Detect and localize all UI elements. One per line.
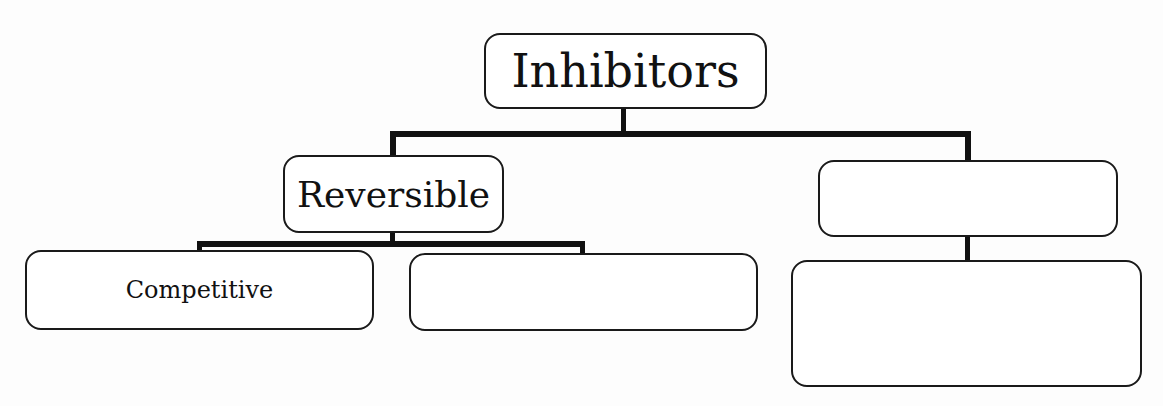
connector-level2-horizontal [390,131,971,137]
node-competitive: Competitive [25,250,374,330]
root-node-inhibitors: Inhibitors [484,33,767,109]
connector-to-right-branch [965,131,971,162]
node-reversible: Reversible [283,155,504,233]
node-right-branch-blank [818,160,1118,237]
node-reversible-label: Reversible [297,174,490,215]
connector-to-reversible [390,131,396,157]
node-reversible-second-child-blank [409,253,758,331]
node-competitive-label: Competitive [126,276,274,304]
connector-level3-horizontal [197,241,585,247]
root-node-label: Inhibitors [511,44,739,98]
node-right-branch-child-blank [791,260,1142,387]
connector-right-branch-down [965,234,970,262]
